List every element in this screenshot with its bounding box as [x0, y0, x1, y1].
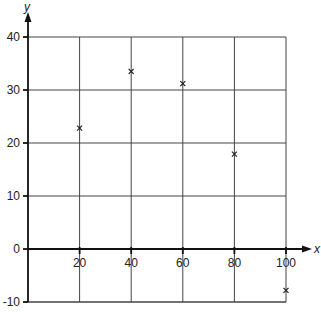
x-axis-arrow-icon: [302, 246, 312, 253]
y-tick-label: 40: [7, 30, 21, 44]
y-tick-label: 10: [7, 189, 21, 203]
tick-labels: -1001020304020406080100: [3, 30, 297, 309]
y-tick-label: 20: [7, 136, 21, 150]
x-tick-label: 100: [276, 256, 296, 270]
x-axis-label: x: [313, 242, 321, 256]
grid-lines: [28, 37, 286, 302]
x-tick-label: 80: [228, 256, 242, 270]
y-tick-label: -10: [3, 295, 21, 309]
x-tick-label: 20: [73, 256, 87, 270]
y-tick-label: 0: [13, 242, 20, 256]
y-tick-label: 30: [7, 83, 21, 97]
axes: [23, 12, 312, 302]
x-tick-label: 40: [125, 256, 139, 270]
x-tick-label: 60: [176, 256, 190, 270]
scatter-chart: -1001020304020406080100 x y: [0, 0, 321, 312]
y-axis-label: y: [23, 0, 31, 14]
